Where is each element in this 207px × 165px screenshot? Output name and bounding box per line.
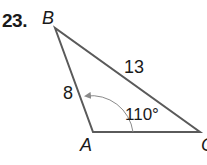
problem-number: 23. [2,11,27,30]
vertex-label-c: C [201,136,207,154]
angle-label-a: 110° [125,106,159,123]
triangle-diagram [0,0,207,165]
vertex-label-b: B [42,9,54,27]
figure: 23. B A C 13 8 110° [0,0,207,165]
side-label-ab: 8 [63,84,73,102]
side-label-bc: 13 [124,58,144,76]
vertex-label-a: A [80,136,92,154]
